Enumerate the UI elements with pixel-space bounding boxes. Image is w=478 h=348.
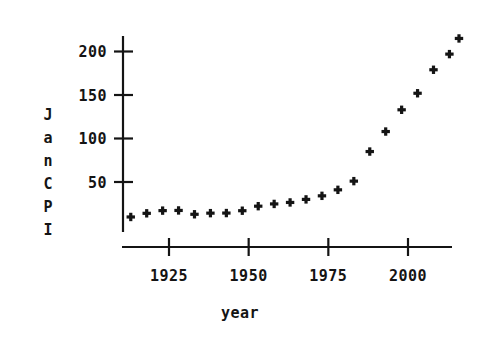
data-point xyxy=(397,106,405,114)
data-point xyxy=(270,200,278,208)
data-point xyxy=(286,198,294,206)
x-tick-label: 1925 xyxy=(150,267,188,285)
y-axis-label-char: I xyxy=(43,221,52,239)
data-point xyxy=(142,209,150,217)
y-axis-group: 50100150200 xyxy=(78,36,133,232)
data-point xyxy=(366,147,374,155)
y-axis-ticks: 50100150200 xyxy=(78,43,133,192)
data-point xyxy=(158,206,166,214)
data-point xyxy=(455,34,463,42)
x-axis-title: year xyxy=(221,304,259,322)
y-axis-label-char: C xyxy=(43,175,52,193)
x-tick-label: 2000 xyxy=(389,267,427,285)
y-axis-label: JanCPI xyxy=(43,106,52,239)
y-axis-label-char: J xyxy=(43,106,52,124)
data-point xyxy=(429,66,437,74)
data-point xyxy=(238,207,246,215)
data-point xyxy=(127,213,135,221)
y-tick-label: 200 xyxy=(78,43,107,61)
data-point xyxy=(174,206,182,214)
scatter-chart: 50100150200 1925195019752000 JanCPI year xyxy=(0,0,478,348)
data-point xyxy=(206,209,214,217)
y-tick-label: 100 xyxy=(78,130,107,148)
chart-canvas: 50100150200 1925195019752000 JanCPI year xyxy=(0,0,478,348)
data-points xyxy=(127,34,464,221)
x-tick-label: 1950 xyxy=(230,267,268,285)
data-point xyxy=(381,127,389,135)
data-point xyxy=(190,210,198,218)
data-point xyxy=(413,89,421,97)
data-point xyxy=(318,192,326,200)
y-axis-label-char: P xyxy=(43,198,52,216)
data-point xyxy=(445,50,453,58)
data-point xyxy=(302,195,310,203)
data-point xyxy=(350,177,358,185)
y-axis-label-char: n xyxy=(43,152,52,170)
x-tick-label: 1975 xyxy=(309,267,347,285)
x-axis-ticks: 1925195019752000 xyxy=(150,238,427,285)
data-point xyxy=(222,209,230,217)
y-axis-label-char: a xyxy=(43,129,52,147)
data-point xyxy=(334,186,342,194)
x-axis-group: 1925195019752000 xyxy=(122,238,452,285)
y-tick-label: 50 xyxy=(88,174,107,192)
data-point xyxy=(254,202,262,210)
y-tick-label: 150 xyxy=(78,87,107,105)
